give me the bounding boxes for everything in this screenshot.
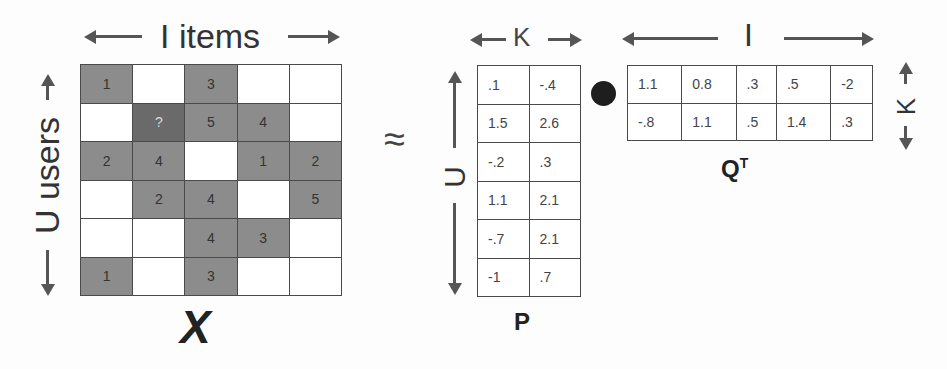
arrow-right-icon	[570, 33, 582, 47]
x-cell	[237, 180, 289, 219]
x-ratings-matrix: 13?5424122454313	[80, 64, 342, 296]
dot-product-icon	[591, 81, 616, 106]
x-cell	[81, 103, 133, 142]
x-cell: 3	[185, 65, 237, 104]
arrow-right-icon	[862, 32, 874, 46]
p-matrix-row: -1.7	[478, 258, 581, 297]
x-items-label: I items	[160, 17, 260, 56]
x-cell	[81, 219, 133, 258]
x-cell	[81, 180, 133, 219]
x-users-label: U users	[28, 111, 67, 241]
qt-matrix-row: -.81.1.51.4.3	[628, 103, 873, 141]
qt-cell: .5	[776, 66, 830, 104]
p-k-label: K	[513, 22, 530, 53]
qt-cell: 1.1	[628, 66, 682, 104]
x-cell	[133, 219, 185, 258]
arrow-down-icon	[899, 138, 913, 150]
x-matrix-row: 13	[81, 65, 342, 104]
x-cell	[185, 142, 237, 181]
qt-cell: 1.4	[776, 103, 830, 141]
arrow-right-icon	[328, 30, 340, 44]
p-cell: -.7	[478, 220, 530, 259]
x-cell	[133, 257, 185, 296]
qt-i-label: I	[744, 17, 753, 54]
x-cell: 4	[133, 142, 185, 181]
x-matrix-name: X	[180, 300, 211, 354]
p-cell: .3	[529, 143, 581, 182]
p-cell: -.4	[529, 66, 581, 105]
p-matrix-row: 1.12.1	[478, 181, 581, 220]
p-cell: -.2	[478, 143, 530, 182]
arrow-down-icon	[41, 284, 55, 296]
qt-cell: 1.1	[682, 103, 736, 141]
p-matrix: .1-.41.52.6-.2.31.12.1-.72.1-1.7	[477, 65, 581, 297]
x-matrix-row: 2412	[81, 142, 342, 181]
x-matrix-row: 13	[81, 257, 342, 296]
approx-symbol: ≈	[384, 118, 405, 161]
p-cell: -1	[478, 258, 530, 297]
x-cell: 3	[185, 257, 237, 296]
p-cell: 2.1	[529, 220, 581, 259]
p-cell: .1	[478, 66, 530, 105]
x-cell: 1	[81, 65, 133, 104]
p-cell: 2.6	[529, 104, 581, 143]
p-cell: 2.1	[529, 181, 581, 220]
x-matrix-row: 43	[81, 219, 342, 258]
qt-cell: -.8	[628, 103, 682, 141]
x-matrix-row: 245	[81, 180, 342, 219]
x-cell	[289, 219, 341, 258]
p-matrix-name: P	[514, 308, 530, 336]
qt-k-label: K	[891, 94, 922, 120]
p-u-label: U	[438, 162, 472, 192]
x-cell: 5	[185, 103, 237, 142]
p-matrix-row: .1-.4	[478, 66, 581, 105]
x-cell	[237, 65, 289, 104]
x-cell	[289, 103, 341, 142]
x-cell: 4	[185, 180, 237, 219]
x-cell: 4	[185, 219, 237, 258]
p-cell: 1.1	[478, 181, 530, 220]
x-cell: 2	[133, 180, 185, 219]
x-cell	[133, 65, 185, 104]
x-cell: 2	[81, 142, 133, 181]
p-matrix-row: -.2.3	[478, 143, 581, 182]
x-cell: 5	[289, 180, 341, 219]
x-cell: 4	[237, 103, 289, 142]
p-matrix-row: -.72.1	[478, 220, 581, 259]
qt-cell: .3	[736, 66, 776, 104]
p-cell: .7	[529, 258, 581, 297]
x-cell: 2	[289, 142, 341, 181]
x-cell	[237, 257, 289, 296]
qt-matrix-row: 1.10.8.3.5-2	[628, 66, 873, 104]
qt-matrix: 1.10.8.3.5-2-.81.1.51.4.3	[627, 65, 873, 141]
p-matrix-row: 1.52.6	[478, 104, 581, 143]
p-cell: 1.5	[478, 104, 530, 143]
x-cell: 1	[237, 142, 289, 181]
x-matrix-row: ?54	[81, 103, 342, 142]
qt-cell: 0.8	[682, 66, 736, 104]
x-cell	[289, 65, 341, 104]
x-cell	[289, 257, 341, 296]
qt-cell: -2	[831, 66, 873, 104]
x-cell: 3	[237, 219, 289, 258]
qt-cell: .5	[736, 103, 776, 141]
qt-matrix-name: QT	[721, 155, 748, 183]
x-cell: 1	[81, 257, 133, 296]
arrow-down-icon	[448, 283, 462, 295]
qt-cell: .3	[831, 103, 873, 141]
x-cell-unknown: ?	[133, 103, 185, 142]
